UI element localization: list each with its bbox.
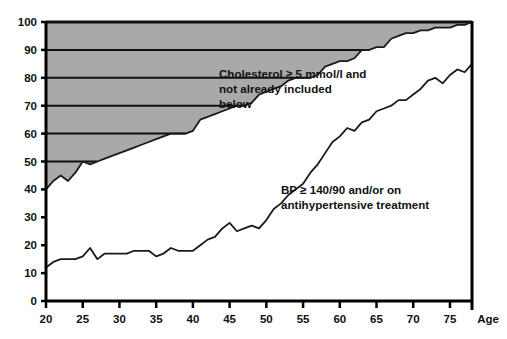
y-tick-label-30: 30 (24, 211, 37, 223)
y-tick-label-80: 80 (24, 72, 37, 84)
bp-annotation-line-1: BP ≥ 140/90 and/or on (281, 183, 401, 196)
y-tick-label-60: 60 (24, 128, 37, 140)
y-tick-label-70: 70 (24, 100, 37, 112)
cholesterol-annotation-line-3: below (219, 97, 253, 110)
cholesterol-annotation-line-2: not already included (219, 82, 332, 95)
x-tick-label-50: 50 (260, 313, 273, 325)
y-tick-label-0: 0 (31, 295, 37, 307)
x-axis-label: Age (477, 313, 499, 325)
x-tick-label-40: 40 (186, 313, 199, 325)
chart-canvas: 0102030405060708090100202530354045505560… (0, 0, 507, 339)
cholesterol-annotation-line-1: Cholesterol ≥ 5 mmol/l and (219, 67, 366, 80)
x-tick-label-70: 70 (407, 313, 420, 325)
y-tick-label-90: 90 (24, 44, 37, 56)
y-tick-label-100: 100 (18, 16, 37, 28)
bp-annotation-line-2: antihypertensive treatment (281, 198, 429, 211)
x-tick-label-25: 25 (76, 313, 89, 325)
x-tick-label-45: 45 (223, 313, 236, 325)
x-tick-label-35: 35 (150, 313, 163, 325)
x-tick-label-55: 55 (297, 313, 310, 325)
x-tick-label-75: 75 (444, 313, 457, 325)
y-tick-label-10: 10 (24, 267, 37, 279)
chart-figure: 0102030405060708090100202530354045505560… (0, 0, 507, 339)
y-tick-label-20: 20 (24, 239, 37, 251)
x-tick-label-60: 60 (333, 313, 346, 325)
x-tick-label-30: 30 (113, 313, 126, 325)
y-tick-label-40: 40 (24, 183, 37, 195)
y-tick-label-50: 50 (24, 156, 37, 168)
x-tick-label-65: 65 (370, 313, 383, 325)
x-tick-label-20: 20 (40, 313, 53, 325)
